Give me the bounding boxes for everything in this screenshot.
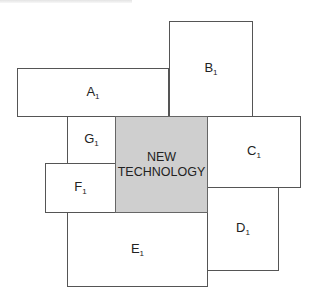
box-c-label: C1	[247, 144, 261, 160]
center-label-line2: TECHNOLOGY	[118, 165, 206, 180]
box-g: G1	[67, 116, 116, 164]
box-f-label: F1	[74, 180, 86, 196]
box-a-label: A1	[86, 85, 99, 101]
box-e: E1	[67, 212, 208, 287]
clipped-heading-text	[0, 0, 132, 3]
box-e-label: E1	[131, 242, 144, 258]
box-g-label: G1	[84, 132, 99, 148]
box-a: A1	[17, 68, 169, 117]
box-b-label: B1	[204, 61, 217, 77]
new-technology-box: NEW TECHNOLOGY	[115, 116, 208, 213]
box-c: C1	[207, 116, 301, 188]
box-d: D1	[207, 187, 279, 271]
box-b: B1	[169, 21, 253, 117]
box-d-label: D1	[236, 221, 250, 237]
box-f: F1	[45, 163, 116, 213]
new-technology-label: NEW TECHNOLOGY	[118, 150, 206, 180]
center-label-line1: NEW	[118, 150, 206, 165]
